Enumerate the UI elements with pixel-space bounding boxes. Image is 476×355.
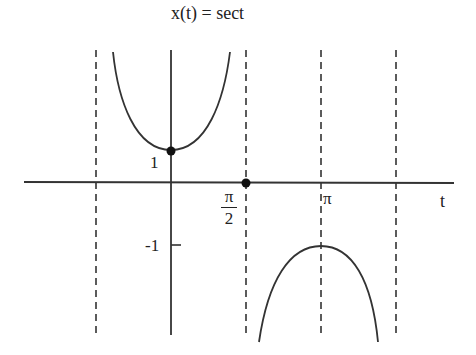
sec-graph (0, 0, 476, 355)
point-pi-half-0 (242, 179, 251, 188)
y-label-minus-one: -1 (145, 237, 159, 254)
point-0-1 (167, 147, 176, 156)
t-axis (24, 182, 454, 183)
x-label-pi: π (323, 190, 332, 207)
chart-title: x(t) = sect (171, 4, 244, 22)
x-label-pi-half: π 2 (221, 188, 237, 227)
pi-half-numerator: π (225, 187, 234, 206)
pi-half-denominator: 2 (225, 209, 234, 228)
t-axis-label: t (440, 192, 445, 210)
y-label-one: 1 (150, 154, 159, 171)
sec-branch-lower (259, 246, 378, 342)
fraction-bar (221, 207, 237, 208)
